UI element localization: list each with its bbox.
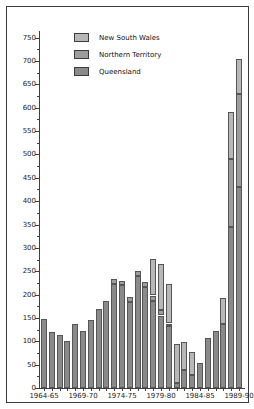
bar-segment bbox=[158, 264, 164, 311]
x-tick bbox=[216, 388, 217, 391]
legend-swatch-nt bbox=[74, 50, 89, 59]
bar-segment bbox=[228, 159, 234, 227]
y-minor-tick bbox=[37, 189, 39, 190]
x-tick bbox=[231, 388, 232, 391]
bar-segment bbox=[127, 297, 133, 302]
bar-segment bbox=[96, 309, 102, 388]
bar-segment bbox=[142, 282, 148, 287]
y-tick-label: 600 bbox=[6, 104, 36, 112]
x-tick bbox=[130, 388, 131, 391]
bar-segment bbox=[119, 285, 125, 388]
bar-segment bbox=[220, 324, 226, 388]
legend-label-nsw: New South Wales bbox=[99, 34, 160, 42]
x-tick bbox=[122, 388, 123, 391]
x-tick bbox=[106, 388, 107, 391]
x-tick bbox=[208, 388, 209, 391]
x-tick bbox=[44, 388, 45, 391]
bar-segment bbox=[127, 302, 133, 388]
y-minor-tick bbox=[37, 330, 39, 331]
bar-segment bbox=[72, 324, 78, 389]
bar-segment bbox=[166, 326, 172, 388]
y-tick-label: 550 bbox=[6, 127, 36, 135]
y-axis bbox=[39, 31, 40, 388]
y-tick-label: 250 bbox=[6, 267, 36, 275]
bar-segment bbox=[111, 279, 117, 284]
bar-segment bbox=[236, 94, 242, 187]
bar-segment bbox=[150, 296, 156, 301]
x-tick bbox=[83, 388, 84, 391]
y-minor-tick bbox=[37, 49, 39, 50]
x-axis bbox=[39, 388, 245, 389]
y-minor-tick bbox=[37, 73, 39, 74]
x-tick bbox=[223, 388, 224, 391]
bar-segment bbox=[213, 331, 219, 388]
y-minor-tick bbox=[37, 213, 39, 214]
bar-segment bbox=[174, 383, 180, 388]
legend-item-nt: Northern Territory bbox=[74, 50, 161, 59]
bar-segment bbox=[181, 342, 187, 370]
bar-segment bbox=[41, 319, 47, 388]
bar-segment bbox=[150, 301, 156, 388]
bar-segment bbox=[49, 332, 55, 388]
y-minor-tick bbox=[37, 96, 39, 97]
y-tick-label: 350 bbox=[6, 221, 36, 229]
bar-segment bbox=[236, 59, 242, 94]
y-tick-label: 0 bbox=[6, 384, 36, 392]
figure-border: 0501001502002503003504004505005506006507… bbox=[6, 6, 249, 403]
y-minor-tick bbox=[37, 283, 39, 284]
bar-segment bbox=[189, 352, 195, 375]
y-tick-label: 450 bbox=[6, 174, 36, 182]
bar-segment bbox=[150, 259, 156, 296]
y-tick-label: 400 bbox=[6, 197, 36, 205]
y-tick-label: 150 bbox=[6, 314, 36, 322]
x-tick bbox=[239, 388, 240, 391]
bar-segment bbox=[88, 320, 94, 388]
bar-segment bbox=[142, 287, 148, 388]
bar-segment bbox=[57, 335, 63, 388]
bar-segment bbox=[181, 370, 187, 388]
x-tick bbox=[60, 388, 61, 391]
y-tick-label: 750 bbox=[6, 34, 36, 42]
x-tick bbox=[145, 388, 146, 391]
bar-segment bbox=[220, 298, 226, 324]
x-tick bbox=[99, 388, 100, 391]
x-tick bbox=[184, 388, 185, 391]
y-tick-label: 500 bbox=[6, 150, 36, 158]
bar-segment bbox=[189, 375, 195, 388]
legend-item-nsw: New South Wales bbox=[74, 33, 161, 42]
x-tick-label: 1989-90 bbox=[219, 392, 254, 400]
y-tick-label: 300 bbox=[6, 244, 36, 252]
legend-item-qld: Queensland bbox=[74, 67, 161, 76]
bar-segment bbox=[158, 310, 164, 315]
x-tick bbox=[169, 388, 170, 391]
x-tick-label: 1979-80 bbox=[141, 392, 181, 400]
bar-segment bbox=[135, 271, 141, 276]
x-tick bbox=[200, 388, 201, 391]
legend: New South Wales Northern Territory Queen… bbox=[74, 33, 161, 84]
y-minor-tick bbox=[37, 236, 39, 237]
bar-segment bbox=[80, 331, 86, 388]
bar-segment bbox=[228, 227, 234, 388]
bar-segment bbox=[64, 341, 70, 388]
x-tick-label: 1969-70 bbox=[63, 392, 103, 400]
x-tick-label: 1964-65 bbox=[24, 392, 64, 400]
bar-segment bbox=[174, 344, 180, 384]
legend-swatch-nsw bbox=[74, 33, 89, 42]
x-tick bbox=[67, 388, 68, 391]
bar-segment bbox=[103, 301, 109, 388]
legend-swatch-qld bbox=[74, 67, 89, 76]
y-minor-tick bbox=[37, 166, 39, 167]
bar-segment bbox=[228, 112, 234, 159]
bar-segment bbox=[166, 284, 172, 324]
bar-segment bbox=[119, 281, 125, 286]
y-minor-tick bbox=[37, 353, 39, 354]
bar-segment bbox=[158, 316, 164, 388]
bar-segment bbox=[205, 338, 211, 388]
bar-segment bbox=[111, 284, 117, 388]
bar-segment bbox=[197, 363, 203, 388]
legend-label-nt: Northern Territory bbox=[99, 51, 161, 59]
y-tick-label: 50 bbox=[6, 361, 36, 369]
chart-figure: 0501001502002503003504004505005506006507… bbox=[0, 0, 254, 409]
y-tick-label: 200 bbox=[6, 291, 36, 299]
x-tick bbox=[177, 388, 178, 391]
